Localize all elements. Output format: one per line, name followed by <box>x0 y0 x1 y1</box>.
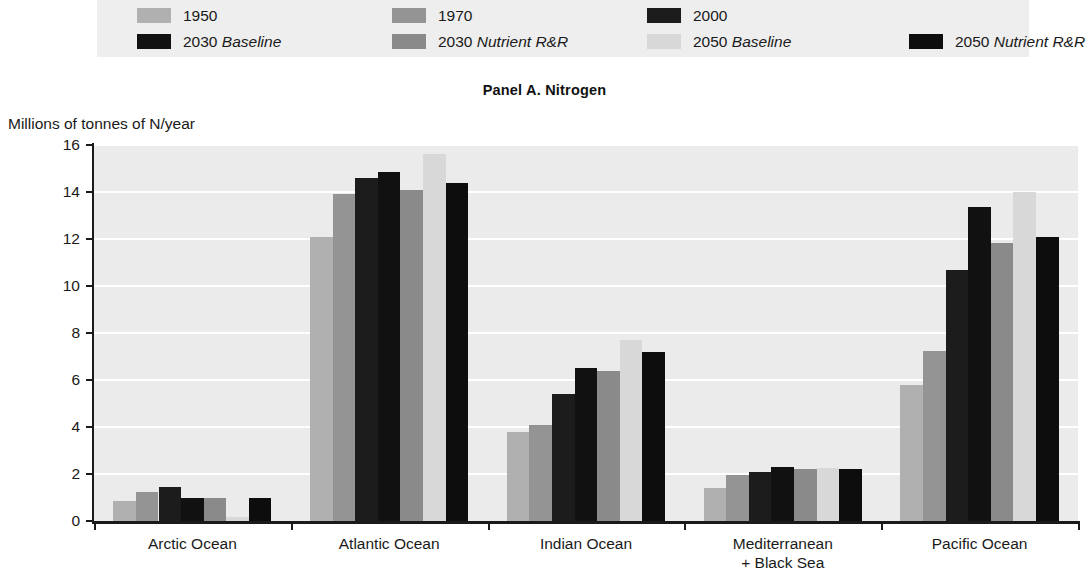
x-axis-category-label: Atlantic Ocean <box>291 534 488 553</box>
legend-row-bottom: 2030 Baseline2030 Nutrient R&R2050 Basel… <box>97 28 1029 54</box>
x-tick-mark <box>291 523 293 530</box>
bar[interactable] <box>552 394 575 521</box>
legend-item[interactable]: 2000 <box>647 2 727 28</box>
x-tick-mark <box>488 523 490 530</box>
bar-group <box>684 145 881 521</box>
y-tick-mark <box>86 238 93 240</box>
legend-item-label-scenario: Nutrient R&R <box>994 33 1085 50</box>
legend-item[interactable]: 2050 Baseline <box>647 28 791 54</box>
x-axis-category-label-line1: Arctic Ocean <box>148 535 237 552</box>
legend-item-label: 2030 Baseline <box>183 34 281 49</box>
y-tick-mark <box>86 191 93 193</box>
bar-group <box>488 145 685 521</box>
chart-legend: 195019702000 2030 Baseline2030 Nutrient … <box>97 0 1029 57</box>
legend-item[interactable]: 2030 Baseline <box>137 28 281 54</box>
y-tick-mark <box>86 332 93 334</box>
bar[interactable] <box>204 498 227 522</box>
y-tick-mark <box>86 379 93 381</box>
y-tick-label: 12 <box>30 231 80 247</box>
x-axis-category-label-line1: Indian Ocean <box>540 535 632 552</box>
bar[interactable] <box>1013 192 1036 521</box>
bar[interactable] <box>400 190 423 521</box>
x-tick-mark <box>94 523 96 530</box>
y-tick-mark <box>86 144 93 146</box>
y-tick-mark <box>86 520 93 522</box>
legend-item[interactable]: 2030 Nutrient R&R <box>392 28 568 54</box>
x-axis-category-label-line1: Atlantic Ocean <box>339 535 440 552</box>
x-tick-mark <box>684 523 686 530</box>
bar[interactable] <box>597 371 620 521</box>
bar-group <box>94 145 291 521</box>
x-axis-category-label: Indian Ocean <box>488 534 685 553</box>
bar[interactable] <box>771 467 794 521</box>
legend-swatch-icon <box>137 8 171 23</box>
bar[interactable] <box>136 492 159 521</box>
y-tick-label: 4 <box>30 419 80 435</box>
x-axis-category-label: Mediterranean+ Black Sea <box>684 534 881 572</box>
legend-item-label: 2000 <box>693 8 727 23</box>
x-tick-mark <box>881 523 883 530</box>
bar[interactable] <box>642 352 665 521</box>
bar[interactable] <box>726 475 749 521</box>
bar[interactable] <box>529 425 552 521</box>
y-tick-label: 2 <box>30 466 80 482</box>
x-axis-category-label-line2: + Black Sea <box>684 553 881 572</box>
bar[interactable] <box>968 207 991 521</box>
legend-item[interactable]: 1970 <box>392 2 472 28</box>
legend-swatch-icon <box>909 34 943 49</box>
bar[interactable] <box>575 368 598 521</box>
x-axis-labels: Arctic OceanAtlantic OceanIndian OceanMe… <box>94 534 1078 574</box>
bar[interactable] <box>620 340 643 521</box>
bar[interactable] <box>1036 237 1059 521</box>
bar[interactable] <box>113 501 136 521</box>
legend-item-label: 1950 <box>183 8 217 23</box>
legend-item-label-scenario: Baseline <box>732 33 791 50</box>
bar[interactable] <box>946 270 969 521</box>
legend-item-label: 2050 Nutrient R&R <box>955 34 1085 49</box>
bar[interactable] <box>423 154 446 521</box>
bar-group <box>291 145 488 521</box>
legend-swatch-icon <box>137 34 171 49</box>
legend-item-label: 2030 Nutrient R&R <box>438 34 568 49</box>
bar[interactable] <box>249 498 272 522</box>
bar[interactable] <box>839 469 862 521</box>
legend-item-label-scenario: Nutrient R&R <box>477 33 568 50</box>
legend-swatch-icon <box>392 34 426 49</box>
legend-swatch-icon <box>647 8 681 23</box>
bar-group <box>881 145 1078 521</box>
x-axis-category-label: Pacific Ocean <box>881 534 1078 553</box>
bar[interactable] <box>333 194 356 521</box>
x-axis-category-label: Arctic Ocean <box>94 534 291 553</box>
y-tick-mark <box>86 426 93 428</box>
bar[interactable] <box>923 351 946 521</box>
x-axis-line <box>92 521 1080 524</box>
legend-swatch-icon <box>647 34 681 49</box>
legend-row-top: 195019702000 <box>97 2 1029 28</box>
bar[interactable] <box>378 172 401 521</box>
bar[interactable] <box>355 178 378 521</box>
y-tick-label: 0 <box>30 513 80 529</box>
x-axis-category-label-line1: Pacific Ocean <box>932 535 1028 552</box>
y-axis-ticks: 0246810121416 <box>30 0 80 574</box>
bar[interactable] <box>310 237 333 521</box>
bar[interactable] <box>181 498 204 522</box>
bar[interactable] <box>749 472 772 521</box>
legend-item-label: 1970 <box>438 8 472 23</box>
bar[interactable] <box>159 487 182 521</box>
panel-title: Panel A. Nitrogen <box>0 82 1089 98</box>
y-tick-label: 6 <box>30 372 80 388</box>
x-axis-category-label-line1: Mediterranean <box>733 535 833 552</box>
legend-item[interactable]: 2050 Nutrient R&R <box>909 28 1085 54</box>
bar[interactable] <box>991 243 1014 521</box>
bar[interactable] <box>900 385 923 521</box>
bar[interactable] <box>817 468 840 521</box>
bar[interactable] <box>794 469 817 521</box>
y-tick-label: 10 <box>30 278 80 294</box>
bar-series-container <box>94 145 1078 521</box>
y-tick-label: 16 <box>30 137 80 153</box>
y-tick-label: 8 <box>30 325 80 341</box>
bar[interactable] <box>507 432 530 521</box>
bar[interactable] <box>446 183 469 521</box>
bar[interactable] <box>704 488 727 521</box>
legend-item[interactable]: 1950 <box>137 2 217 28</box>
